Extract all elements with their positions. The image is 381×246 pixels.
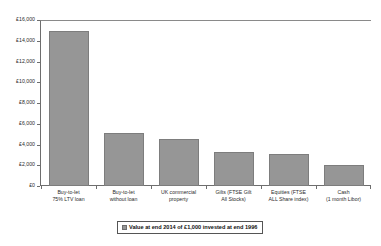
y-axis-tick-label: £12,000 (16, 58, 35, 65)
x-axis-category-label: Gilts (FTSE GiltAll Stocks) (206, 189, 261, 204)
x-axis-category-label: Buy-to-letwithout loan (96, 189, 151, 204)
chart-legend: Value at end 2014 of £1,000 invested at … (117, 221, 263, 234)
x-axis-category-label: Cash(1 month Libor) (316, 189, 371, 204)
bar-slot (206, 20, 261, 186)
y-axis-tick-mark (37, 145, 40, 146)
category-label-line: Equities (FTSE (261, 189, 316, 196)
category-label-line: property (151, 196, 206, 203)
category-label-line: without loan (96, 196, 151, 203)
y-axis-tick-label: £6,000 (19, 120, 35, 127)
y-axis-tick-label: £2,000 (19, 161, 35, 168)
bar-chart: £16,000£14,000£12,000£10,000£8,000£6,000… (0, 0, 381, 246)
category-label-line: Buy-to-let (41, 189, 96, 196)
bar[interactable] (49, 31, 89, 186)
category-label-line: 75% LTV loan (41, 196, 96, 203)
bar[interactable] (269, 154, 309, 186)
y-axis-tick-mark (37, 124, 40, 125)
bar[interactable] (104, 133, 144, 186)
y-axis-tick-mark (37, 165, 40, 166)
category-label-line: Buy-to-let (96, 189, 151, 196)
category-label-line: Cash (316, 189, 371, 196)
bar-slot (96, 20, 151, 186)
y-axis-tick-label: £0 (29, 182, 35, 189)
y-axis-tick-mark (37, 186, 40, 187)
category-label-line: Gilts (FTSE Gilt (206, 189, 261, 196)
y-axis-tick-label: £10,000 (16, 78, 35, 85)
y-axis-tick-mark (37, 103, 40, 104)
y-axis: £16,000£14,000£12,000£10,000£8,000£6,000… (0, 20, 40, 186)
bar-slot (151, 20, 206, 186)
y-axis-tick-mark (37, 20, 40, 21)
legend-label: Value at end 2014 of £1,000 invested at … (129, 224, 257, 231)
bar-slot (41, 20, 96, 186)
category-label-line: (1 month Libor) (316, 196, 371, 203)
bar-slot (261, 20, 316, 186)
bar[interactable] (324, 165, 364, 186)
bar-slot (316, 20, 371, 186)
category-label-line: All Stocks) (206, 196, 261, 203)
x-axis-category-label: Equities (FTSEALL Share index) (261, 189, 316, 204)
category-label-line: ALL Share index) (261, 196, 316, 203)
y-axis-tick-label: £16,000 (16, 16, 35, 23)
category-label-line: UK commercial (151, 189, 206, 196)
bar[interactable] (159, 139, 199, 186)
y-axis-tick-label: £14,000 (16, 37, 35, 44)
y-axis-tick-label: £4,000 (19, 141, 35, 148)
y-axis-tick-label: £8,000 (19, 99, 35, 106)
y-axis-tick-mark (37, 41, 40, 42)
bar[interactable] (214, 152, 254, 186)
y-axis-tick-mark (37, 62, 40, 63)
legend-swatch-icon (122, 225, 127, 230)
bars-layer (41, 20, 371, 186)
x-axis-category-label: Buy-to-let75% LTV loan (41, 189, 96, 204)
x-axis-category-labels: Buy-to-let75% LTV loanBuy-to-letwithout … (41, 189, 371, 209)
x-axis-category-label: UK commercialproperty (151, 189, 206, 204)
y-axis-tick-mark (37, 82, 40, 83)
